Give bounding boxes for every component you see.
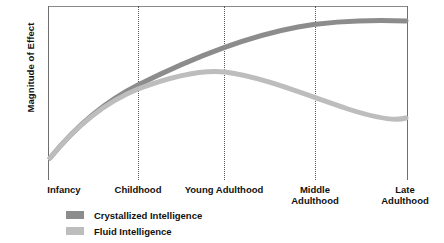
x-tick-label-infancy: Infancy — [22, 184, 106, 195]
legend-swatch-crystallized — [66, 211, 84, 219]
plot-area — [48, 6, 408, 180]
legend-label-crystallized: Crystallized Intelligence — [94, 210, 202, 221]
crystallized-intelligence-curve — [50, 21, 406, 158]
fluid-intelligence-curve — [50, 72, 406, 158]
legend-swatch-fluid — [66, 227, 84, 235]
chart-legend: Crystallized Intelligence Fluid Intellig… — [66, 207, 202, 239]
x-tick-label-late-adulthood: Late Adulthood — [366, 184, 444, 206]
legend-item-fluid: Fluid Intelligence — [66, 223, 202, 239]
x-tick-label-childhood: Childhood — [96, 184, 180, 195]
legend-label-fluid: Fluid Intelligence — [94, 226, 172, 237]
legend-item-crystallized: Crystallized Intelligence — [66, 207, 202, 223]
x-tick-label-middle-adulthood: Middle Adulthood — [273, 184, 357, 206]
intelligence-lifespan-chart: Magnitude of Effect Infancy Childhood Yo… — [0, 0, 444, 243]
x-tick-label-young-adulthood: Young Adulthood — [170, 184, 278, 195]
y-axis-title: Magnitude of Effect — [25, 0, 36, 148]
chart-curves — [48, 6, 408, 180]
